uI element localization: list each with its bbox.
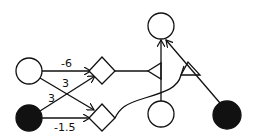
input-open-circle — [16, 58, 42, 84]
weight-label-open-upper: -6 — [61, 57, 72, 70]
edge-right-to-top — [166, 40, 220, 103]
network-diagram: -6 3 3 -1.5 — [0, 0, 257, 139]
output-top-circle — [148, 13, 174, 39]
weight-label-filled-lower: -1.5 — [54, 121, 75, 134]
sum-diamond-upper — [89, 57, 115, 84]
modulator-bottom-circle — [148, 101, 174, 127]
weight-label-open-lower: 3 — [62, 77, 69, 90]
modulator-right-circle — [213, 101, 241, 129]
synapse-triangle-left — [148, 63, 161, 79]
sum-diamond-lower — [89, 104, 115, 131]
input-filled-circle — [16, 105, 42, 131]
weight-label-filled-upper: 3 — [48, 92, 55, 105]
